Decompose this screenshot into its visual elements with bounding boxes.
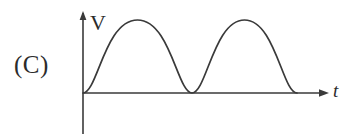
- t-axis-label: t: [333, 80, 339, 101]
- waveform-figure: (C) V t: [0, 0, 351, 134]
- v-axis-label: V: [90, 10, 106, 35]
- t-axis-arrowhead: [319, 89, 329, 97]
- waveform-plot: V t: [0, 0, 351, 134]
- rectified-sine-curve: [83, 20, 297, 93]
- v-axis-arrowhead: [80, 11, 87, 20]
